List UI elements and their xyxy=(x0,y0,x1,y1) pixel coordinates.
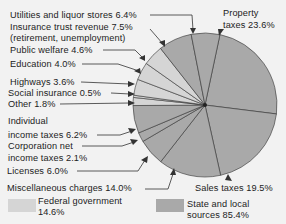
label-insurance-line1: Insurance trust revenue 7.5% xyxy=(10,22,133,32)
label-insurance-line2: (retirement, unemployment) xyxy=(10,33,125,43)
legend-state-line2: sources 85.4% xyxy=(187,210,249,220)
legend-federal-line2: 14.6% xyxy=(38,207,65,217)
label-sales-taxes: Sales taxes 19.5% xyxy=(195,183,273,193)
legend-state-line1: State and local xyxy=(187,199,249,209)
label-licenses: Licenses 6.0% xyxy=(7,166,68,176)
legend-swatch-state-local xyxy=(156,199,184,212)
label-misc-charges: Miscellaneous charges 14.0% xyxy=(7,183,132,193)
legend-federal-line1: Federal government xyxy=(38,196,122,206)
label-property-line1: Property xyxy=(223,8,259,18)
label-corporation-line1: Corporation net xyxy=(8,141,73,151)
label-education: Education 4.0% xyxy=(10,59,76,69)
label-social-insurance: Social insurance 0.5% xyxy=(8,88,101,98)
label-corporation-line2: income taxes 2.1% xyxy=(8,153,87,163)
label-property-line2: taxes 23.6% xyxy=(223,20,275,30)
label-individual-line1: Individual xyxy=(8,116,48,126)
label-individual-line2: income taxes 6.2% xyxy=(8,130,87,140)
label-welfare: Public welfare 4.6% xyxy=(10,45,93,55)
label-utilities: Utilities and liquor stores 6.4% xyxy=(10,10,137,20)
label-highways: Highways 3.6% xyxy=(10,77,75,87)
label-other: Other 1.8% xyxy=(8,99,55,109)
legend-swatch-federal xyxy=(8,199,36,212)
pie-wedges xyxy=(133,33,277,177)
